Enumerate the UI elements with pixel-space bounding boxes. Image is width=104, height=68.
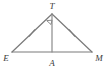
geometry-figure: T E M A — [0, 0, 104, 68]
tick-mark-TM — [69, 30, 74, 36]
vertex-label-M: M — [94, 53, 103, 63]
vertex-label-A: A — [48, 58, 55, 68]
vertex-label-T: T — [49, 1, 55, 11]
figure-canvas: T E M A — [0, 0, 104, 68]
right-angle-marker-T — [47, 20, 52, 24]
vertex-label-E: E — [2, 53, 9, 63]
tick-mark-ET — [29, 30, 34, 36]
